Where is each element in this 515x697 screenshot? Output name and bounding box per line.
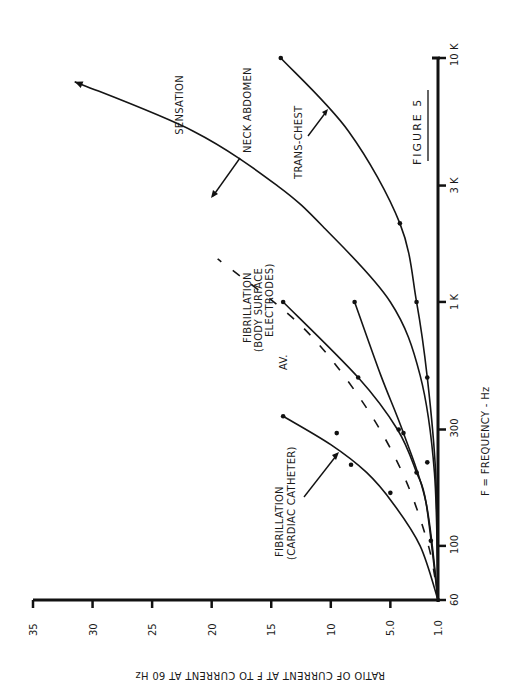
ratio-tick-label: 20 (207, 623, 218, 636)
ratio-tick-label: 1.0 (433, 620, 444, 636)
data-point (425, 375, 430, 380)
ratio-tick-label: 25 (147, 623, 158, 636)
ratio-tick-label: 5.0 (385, 620, 396, 636)
frequency-tick-label: 100 (449, 535, 460, 554)
label-trans-chest: TRANS-CHEST (293, 105, 304, 180)
frequency-tick-label: 60 (449, 593, 460, 606)
data-point (334, 431, 339, 436)
data-point (281, 300, 286, 305)
arrowhead-trans-chest (322, 109, 328, 116)
frequency-tick-label: 300 (449, 418, 460, 437)
data-point (429, 538, 434, 543)
label-fib-cath-2: (CARDIAC CATHETER) (286, 446, 297, 560)
label-av: AV. (278, 354, 289, 370)
figure-title: FIGURE 5 (411, 98, 424, 165)
arrow-trans-chest (308, 112, 326, 136)
x-axis-title: F = FREQUENCY - Hz (480, 386, 491, 496)
y-axis-title: RATIO OF CURRENT AT F TO CURRENT AT 60 H… (135, 670, 385, 681)
label-fib-cath-1: FIBRILLATION (274, 486, 285, 557)
data-point (396, 427, 401, 432)
data-point (414, 300, 419, 305)
arrow-cardiac-catheter (304, 456, 336, 497)
label-sensation: SENSATION (174, 75, 185, 135)
ratio-tick-label: 35 (28, 623, 39, 636)
label-fib-body-3: ELECTRODES) (264, 263, 275, 337)
curve-fibrillation-cardiac-catheter (283, 416, 438, 600)
ratio-tick-label: 30 (88, 623, 99, 636)
label-neck-abdomen: NECK ABDOMEN (242, 67, 253, 153)
data-point (414, 470, 419, 475)
data-point (398, 221, 403, 226)
curve-fibrillation-body-surface-electrodes (283, 302, 438, 600)
data-point (352, 300, 357, 305)
frequency-axis-ticks: 601003001 K3 K10 K (438, 43, 460, 606)
frequency-tick-label: 10 K (449, 43, 460, 66)
data-point (388, 491, 393, 496)
label-fib-body-1: FIBRILLATION (242, 272, 253, 343)
data-point (349, 462, 354, 467)
curve-neck-abdomen-measured (355, 302, 438, 600)
data-point (401, 431, 406, 436)
data-point (425, 460, 430, 465)
frequency-tick-label: 1 K (449, 293, 460, 310)
ratio-tick-label: 10 (326, 623, 337, 636)
ratio-axis-ticks: 1.05.0101520253035 (28, 600, 444, 636)
figure-chart: 1.05.0101520253035 601003001 K3 K10 K SE… (0, 0, 515, 697)
arrow-neck-abdomen (213, 158, 240, 196)
label-fib-body-2: (BODY SURFACE (253, 268, 264, 352)
data-point (356, 375, 361, 380)
ratio-tick-label: 15 (266, 623, 277, 636)
frequency-tick-label: 3 K (449, 177, 460, 194)
data-point (281, 414, 286, 419)
data-point (278, 56, 283, 61)
